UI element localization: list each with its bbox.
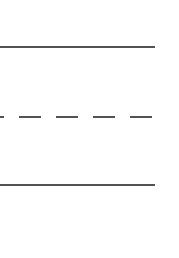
line-diagram [0, 0, 179, 258]
diagram-canvas [0, 0, 179, 258]
